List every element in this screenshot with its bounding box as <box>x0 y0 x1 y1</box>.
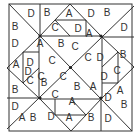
piece-label: B <box>44 7 51 18</box>
piece-label: D <box>11 38 18 49</box>
piece-label: B <box>88 112 95 123</box>
piece-label: B <box>74 81 81 92</box>
vertex-dot <box>38 96 41 99</box>
piece-label: C <box>26 75 33 86</box>
piece-label: A <box>37 38 44 49</box>
piece-label: C <box>59 71 66 82</box>
vertex-dot <box>99 96 102 99</box>
piece-label: D <box>87 8 94 19</box>
piece-label: B <box>30 112 37 123</box>
piece-label: A <box>117 85 124 96</box>
piece-label: B <box>120 49 127 60</box>
piece-label: A <box>90 81 97 92</box>
piece-label: D <box>74 23 81 34</box>
piece-label: A <box>13 59 20 70</box>
piece-label: C <box>51 22 58 33</box>
piece-label: C <box>51 89 58 100</box>
piece-label: C <box>37 71 44 82</box>
piece-label: D <box>11 101 18 112</box>
piece-label: C <box>71 41 78 52</box>
piece-label: D <box>120 22 127 33</box>
pinwheel-puzzle-figure: DBBADCDABDDABCDCBADCBCDCACADBCBCADDBDABD… <box>0 0 136 138</box>
piece-label: D <box>104 92 111 103</box>
piece-label: A <box>66 8 73 19</box>
piece-label: D <box>27 8 34 19</box>
piece-label: D <box>104 113 111 124</box>
piece-label: B <box>121 99 128 110</box>
piece-label: C <box>84 52 91 63</box>
piece-label: B <box>12 21 19 32</box>
piece-label: A <box>19 112 26 123</box>
vertex-dot <box>99 34 102 37</box>
piece-label: A <box>86 28 93 39</box>
piece-label: B <box>104 7 111 18</box>
piece-label: B <box>58 38 65 49</box>
piece-label: D <box>96 52 103 63</box>
piece-label: C <box>48 55 55 66</box>
vertex-dot <box>69 66 72 69</box>
piece-label: A <box>66 112 73 123</box>
piece-label: D <box>100 71 107 82</box>
piece-label: D <box>47 111 54 122</box>
piece-label: C <box>113 65 120 76</box>
piece-label: B <box>12 84 19 95</box>
piece-label: A <box>69 96 76 107</box>
